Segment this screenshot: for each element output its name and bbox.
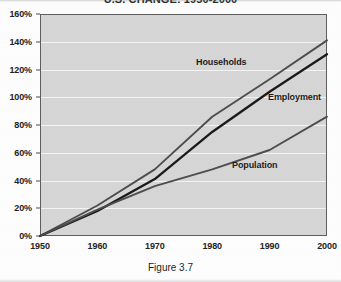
figure-caption: Figure 3.7 (0, 262, 341, 273)
x-tick-label: 1980 (202, 241, 222, 251)
y-tick-label: 120% (9, 65, 32, 75)
y-tick-label: 140% (9, 37, 32, 47)
x-tick-label: 1970 (145, 241, 165, 251)
x-axis: 195019601970198019902000 (40, 241, 327, 255)
gridline (41, 14, 326, 15)
x-tick-label: 2000 (317, 241, 337, 251)
y-axis: 0%20%40%60%80%100%120%140%160% (0, 14, 36, 236)
gridline (41, 70, 326, 71)
gridline (41, 42, 326, 43)
chart-title: U.S. CHANGE: 1950-2000 (0, 0, 341, 6)
gridline (41, 125, 326, 126)
y-tick-label: 160% (9, 9, 32, 19)
series-label-population: Population (232, 160, 278, 170)
series-label-households: Households (196, 57, 247, 67)
y-tick-label: 0% (19, 231, 32, 241)
y-tick-label: 40% (14, 176, 32, 186)
y-tick-label: 100% (9, 92, 32, 102)
y-tick-label: 80% (14, 120, 32, 130)
series-label-employment: Employment (268, 92, 321, 102)
y-tick-label: 20% (14, 203, 32, 213)
y-tick-label: 60% (14, 148, 32, 158)
gridline (41, 181, 326, 182)
gridlines (41, 15, 326, 235)
x-tick-label: 1960 (88, 241, 108, 251)
gridline (41, 153, 326, 154)
plot-area (40, 14, 327, 236)
x-tick-label: 1990 (260, 241, 280, 251)
x-tick-label: 1950 (30, 241, 50, 251)
figure-container: U.S. CHANGE: 1950-2000 0%20%40%60%80%100… (0, 0, 341, 282)
gridline (41, 208, 326, 209)
